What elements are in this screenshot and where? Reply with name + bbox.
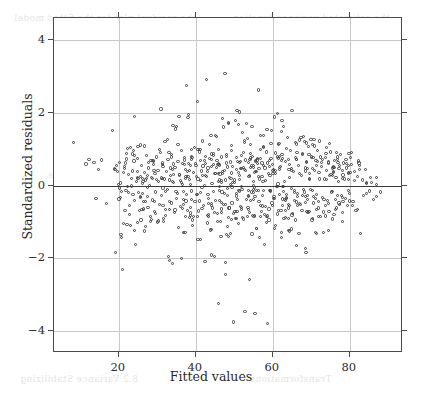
scatter-point [252,188,255,191]
scatter-point [293,199,296,202]
scatter-point [307,153,310,156]
y-tick-label: 4 [21,32,45,46]
scatter-point [295,142,298,145]
scatter-point [189,214,192,217]
scatter-point [262,146,265,149]
scatter-point [235,192,238,195]
scatter-point [188,178,191,181]
scatter-point [129,146,132,149]
scatter-point [304,169,307,172]
scatter-point [190,155,193,158]
scatter-point [254,160,257,163]
scatter-point [347,164,350,167]
scatter-point [248,174,251,177]
scatter-point [281,197,284,200]
scatter-point [245,198,248,201]
scatter-point [186,175,189,178]
scatter-point [313,144,316,147]
scatter-point [296,204,299,207]
scatter-point [123,165,126,168]
scatter-point [271,172,274,175]
scatter-point [248,278,251,281]
scatter-point [252,191,255,194]
scatter-point [170,201,173,204]
scatter-point [322,198,325,201]
scatter-point [125,152,128,155]
scatter-point [370,181,373,184]
scatter-point [179,205,182,208]
scatter-point [273,197,276,200]
scatter-point [234,217,237,220]
scatter-point [361,178,364,181]
scatter-point [220,207,223,210]
scatter-point [184,175,187,178]
scatter-point [238,178,241,181]
scatter-point [257,175,260,178]
scatter-point [224,273,227,276]
scatter-point [182,203,185,206]
scatter-point [308,172,311,175]
scatter-point [154,212,157,215]
scatter-point [126,147,129,150]
scatter-point [187,162,190,165]
scatter-point [226,225,229,228]
scatter-point [173,166,176,169]
scatter-point [157,219,160,222]
scatter-point [164,214,167,217]
scatter-point [287,168,290,171]
scatter-point [260,161,263,164]
scatter-point [157,180,160,183]
scatter-point [210,152,213,155]
scatter-point [301,152,304,155]
scatter-point [324,152,327,155]
scatter-point [242,166,245,169]
scatter-point [186,170,189,173]
scatter-point [235,156,238,159]
scatter-point [274,151,277,154]
scatter-point [315,193,318,196]
scatter-point [246,215,249,218]
scatter-point [169,166,172,169]
scatter-point [212,152,215,155]
scatter-point [226,194,229,197]
scatter-point [162,220,165,223]
scatter-point [140,208,143,211]
scatter-point [171,180,174,183]
scatter-point [144,225,147,228]
scatter-point [288,176,291,179]
scatter-point [135,180,138,183]
scatter-point [94,197,97,200]
scatter-point [262,164,265,167]
scatter-point [241,216,244,219]
gridline-horizontal [54,258,401,259]
scatter-point [150,218,153,221]
scatter-point [210,253,213,256]
scatter-point [201,164,204,167]
scatter-point [204,162,207,165]
gridline-vertical [350,18,351,351]
scatter-point [139,143,142,146]
scatter-point [168,259,171,262]
scatter-point [238,161,241,164]
scatter-point [152,163,155,166]
scatter-point [287,217,290,220]
scatter-point [282,217,285,220]
scatter-point [271,163,274,166]
scatter-point [190,156,193,159]
scatter-point [274,169,277,172]
y-tick-mark-right [402,39,407,40]
scatter-point [180,149,183,152]
scatter-point [281,185,284,188]
scatter-point [265,221,268,224]
scatter-point [246,206,249,209]
scatter-point [348,199,351,202]
scatter-point [141,180,144,183]
scatter-point [250,164,253,167]
scatter-point [111,129,114,132]
scatter-point [172,173,175,176]
scatter-point [147,166,150,169]
scatter-point [276,212,279,215]
scatter-point [114,251,117,254]
scatter-point [320,165,323,168]
scatter-point [187,113,190,116]
